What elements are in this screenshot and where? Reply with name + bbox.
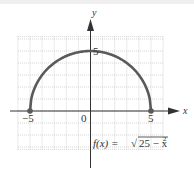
function-label-prefix: f(x) = <box>93 137 118 150</box>
svg-text:f(x) =: f(x) = <box>93 137 118 150</box>
function-label-exponent: 2 <box>163 135 167 143</box>
function-label: f(x) = √ 25 − x 2 <box>93 135 168 150</box>
radical-sign-icon: √ <box>131 137 138 149</box>
labels: y x 5 −5 0 5 f(x) = √ 25 − x 2 <box>22 7 188 150</box>
semicircle-chart: y x 5 −5 0 5 f(x) = √ 25 − x 2 <box>0 0 194 177</box>
y-axis-label: y <box>91 7 97 18</box>
x-axis-label: x <box>182 105 188 116</box>
x-tick-5: 5 <box>148 112 154 124</box>
origin-label: 0 <box>81 112 87 124</box>
x-tick-neg5: −5 <box>22 112 34 124</box>
y-tick-5: 5 <box>93 45 99 57</box>
